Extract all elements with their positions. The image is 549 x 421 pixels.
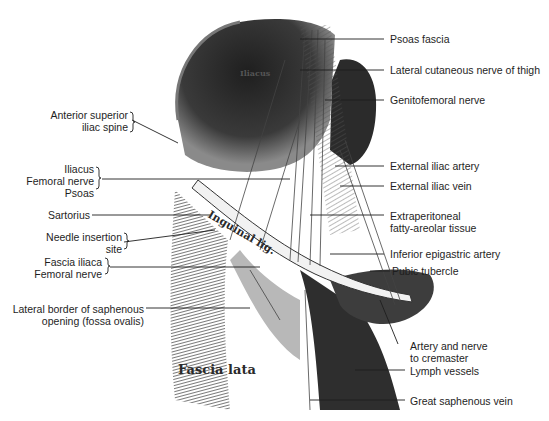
label-line: Inferior epigastric artery (390, 248, 500, 260)
label-great-saphenous-vein: Great saphenous vein (410, 395, 513, 407)
label-anterior-superior-iliac-spine: Anterior superior iliac spine (50, 109, 128, 133)
anatomy-figure: Iliacus Inguinal lig. Fascia lata Anteri… (0, 0, 549, 421)
label-line: Anterior superior (50, 109, 128, 121)
label-line: to cremaster (410, 352, 488, 364)
label-line: fatty-areolar tissue (390, 222, 476, 234)
label-line: Great saphenous vein (410, 395, 513, 407)
label-line: Lateral border of saphenous (13, 303, 144, 315)
label-external-iliac-vein: External iliac vein (390, 180, 472, 192)
label-line: Extraperitoneal (390, 210, 476, 222)
label-extraperitoneal-tissue: Extraperitoneal fatty-areolar tissue (390, 210, 476, 234)
label-line: External iliac vein (390, 180, 472, 192)
iliacus-inscription: Iliacus (240, 68, 270, 78)
label-line: Needle insertion (46, 231, 122, 243)
label-genitofemoral-nerve: Genitofemoral nerve (390, 94, 485, 106)
label-saphenous-opening: Lateral border of saphenous opening (fos… (13, 303, 144, 327)
label-line: opening (fossa ovalis) (13, 315, 144, 327)
label-line: Psoas fascia (390, 33, 450, 45)
label-sartorius: Sartorius (48, 209, 90, 221)
label-external-iliac-artery: External iliac artery (390, 160, 479, 172)
label-pubic-tubercle: Pubic tubercle (392, 265, 459, 277)
label-line: Fascia iliaca (34, 256, 102, 268)
label-lateral-cutaneous-nerve: Lateral cutaneous nerve of thigh (390, 64, 540, 76)
label-line: Sartorius (48, 209, 90, 221)
label-line: Iliacus (26, 163, 94, 175)
label-psoas-fascia: Psoas fascia (390, 33, 450, 45)
label-line: Genitofemoral nerve (390, 94, 485, 106)
label-line: Lymph vessels (410, 365, 479, 377)
label-inferior-epigastric-artery: Inferior epigastric artery (390, 248, 500, 260)
label-line: iliac spine (50, 121, 128, 133)
label-fascia-iliaca-femoral-nerve: Fascia iliaca Femoral nerve (34, 256, 102, 280)
label-needle-insertion-site: Needle insertion site (46, 231, 122, 255)
label-line: Femoral nerve (34, 268, 102, 280)
label-artery-nerve-cremaster: Artery and nerve to cremaster (410, 340, 488, 364)
label-line: Pubic tubercle (392, 265, 459, 277)
label-line: External iliac artery (390, 160, 479, 172)
label-line: Psoas (26, 187, 94, 199)
label-lymph-vessels: Lymph vessels (410, 365, 479, 377)
label-line: site (46, 243, 122, 255)
label-iliacus-femoral-psoas: Iliacus Femoral nerve Psoas (26, 163, 94, 199)
label-line: Femoral nerve (26, 175, 94, 187)
label-line: Lateral cutaneous nerve of thigh (390, 64, 540, 76)
fascia-lata-inscription: Fascia lata (178, 362, 256, 377)
label-line: Artery and nerve (410, 340, 488, 352)
